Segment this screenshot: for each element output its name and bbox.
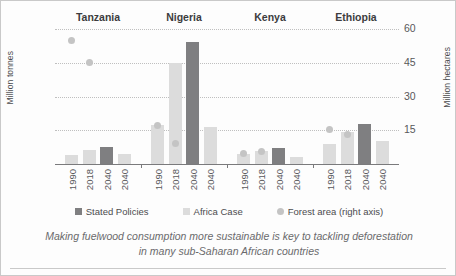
circle-swatch-icon xyxy=(277,208,284,215)
country-group: Ethiopia1990201820402040 xyxy=(313,29,399,164)
y-axis-tick-right: 30 xyxy=(404,90,434,102)
x-axis-tick-label: 2018 xyxy=(256,169,267,190)
bar xyxy=(204,127,217,164)
x-axis-tick-label: 2040 xyxy=(274,169,285,190)
bar xyxy=(118,154,131,164)
bar xyxy=(272,148,285,164)
legend-item[interactable]: Stated Policies xyxy=(75,206,149,217)
bar xyxy=(65,155,78,164)
legend-item[interactable]: Africa Case xyxy=(183,206,243,217)
forest-area-point xyxy=(326,126,333,133)
bar xyxy=(151,125,164,164)
x-axis-tick-label: 2040 xyxy=(377,169,388,190)
bar xyxy=(100,147,113,164)
y-axis-tick-right: 60 xyxy=(404,22,434,34)
x-axis-tick-label: 2018 xyxy=(170,169,181,190)
left-axis-title: Million tonnes xyxy=(5,51,15,104)
group-title-ethiopia: Ethiopia xyxy=(313,11,399,23)
axis-separator-tick xyxy=(141,164,142,168)
forest-area-point xyxy=(86,59,93,66)
legend-label: Stated Policies xyxy=(86,206,149,217)
forest-area-point xyxy=(172,140,179,147)
x-axis-tick-label: 1990 xyxy=(67,169,78,190)
group-title-tanzania: Tanzania xyxy=(55,11,141,23)
x-axis-tick-label: 2018 xyxy=(342,169,353,190)
x-axis-tick-label: 1990 xyxy=(239,169,250,190)
forest-area-point xyxy=(258,148,265,155)
x-axis-tick-label: 2040 xyxy=(291,169,302,190)
chart-legend: Stated PoliciesAfrica CaseForest area (r… xyxy=(1,206,456,217)
country-group: Nigeria1990201820402040 xyxy=(141,29,227,164)
group-title-nigeria: Nigeria xyxy=(141,11,227,23)
forest-area-point xyxy=(344,131,351,138)
axis-separator-tick xyxy=(313,164,314,168)
bar xyxy=(290,157,303,164)
chart-container: Million tonnes Million hectares 40060300… xyxy=(0,0,456,276)
x-axis-tick-label: 2040 xyxy=(188,169,199,190)
bottom-divider xyxy=(10,268,446,269)
x-axis-tick-label: 2040 xyxy=(102,169,113,190)
x-axis-tick-label: 1990 xyxy=(153,169,164,190)
bar xyxy=(83,150,96,164)
y-axis-tick-right: 45 xyxy=(404,56,434,68)
bar xyxy=(358,124,371,165)
square-swatch-icon xyxy=(75,208,82,215)
x-axis-tick-label: 2018 xyxy=(84,169,95,190)
chart-caption: Making fuelwood consumption more sustain… xyxy=(41,229,417,259)
y-axis-tick-right: 15 xyxy=(404,123,434,135)
group-title-kenya: Kenya xyxy=(227,11,313,23)
x-axis-tick-label: 2040 xyxy=(119,169,130,190)
square-swatch-icon xyxy=(183,208,190,215)
x-axis-tick-label: 1990 xyxy=(325,169,336,190)
bar xyxy=(376,141,389,164)
bar xyxy=(169,63,182,164)
legend-label: Africa Case xyxy=(194,206,243,217)
legend-item[interactable]: Forest area (right axis) xyxy=(277,206,384,217)
bar xyxy=(323,144,336,164)
country-group: Tanzania1990201820402040 xyxy=(55,29,141,164)
x-axis-tick-label: 2040 xyxy=(205,169,216,190)
x-axis-tick-label: 2040 xyxy=(360,169,371,190)
legend-label: Forest area (right axis) xyxy=(288,206,384,217)
bar xyxy=(186,42,199,165)
plot-area: 40060300452003010015Tanzania199020182040… xyxy=(55,29,399,164)
axis-separator-tick xyxy=(227,164,228,168)
right-axis-title: Million hectares xyxy=(442,47,452,108)
country-group: Kenya1990201820402040 xyxy=(227,29,313,164)
forest-area-point xyxy=(68,37,75,44)
